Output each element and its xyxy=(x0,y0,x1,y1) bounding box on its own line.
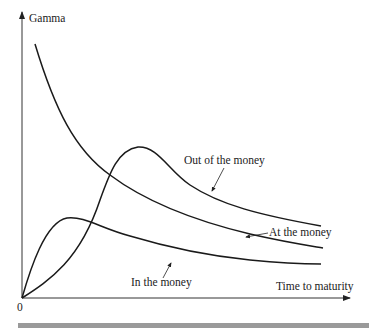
otm-label: Out of the money xyxy=(184,154,265,166)
x-axis-label: Time to maturity xyxy=(276,280,354,292)
origin-label: 0 xyxy=(17,301,23,313)
y-axis-label: Gamma xyxy=(29,12,65,24)
otm-pointer xyxy=(212,168,224,191)
atm-label: At the money xyxy=(269,226,332,238)
itm-label: In the money xyxy=(131,276,192,288)
bottom-divider xyxy=(18,323,369,328)
